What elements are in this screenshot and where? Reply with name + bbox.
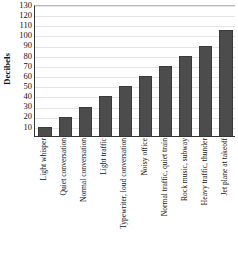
x-axis-tick-label-slot: Quiet conversation <box>57 138 71 262</box>
y-axis-tick-label: 80 <box>24 52 33 61</box>
bar <box>99 96 112 137</box>
x-axis-tick-labels: Light whisperQuiet conversationNormal co… <box>34 138 235 265</box>
x-axis-tick-label-slot: Rock music, subway <box>178 138 192 262</box>
x-axis-tick-label: Heavy traffic, thunder <box>201 138 209 205</box>
y-axis-tick-label: 70 <box>24 62 33 71</box>
x-axis-tick-label-slot: Normal traffic, quiet train <box>158 138 172 262</box>
bar <box>199 46 212 137</box>
bar <box>59 117 72 137</box>
bar <box>79 107 92 137</box>
y-axis-tick-label: 10 <box>24 123 33 132</box>
y-axis-tick-label: 60 <box>24 72 33 81</box>
x-axis-tick-label: Rock music, subway <box>181 138 189 201</box>
x-axis-tick-label: Light whisper <box>40 138 48 180</box>
y-axis-tick-label: 40 <box>24 92 33 101</box>
bar-chart: Decibels 130120110100908070605040302010 … <box>0 0 238 265</box>
x-axis-tick-label-slot: Jet plane at takeoff <box>218 138 232 262</box>
y-axis-tick-label: 20 <box>24 112 33 121</box>
x-axis-tick-label-slot: Light whisper <box>37 138 51 262</box>
x-axis-tick-label: Light traffic <box>100 138 108 175</box>
y-axis-title-label: Decibels <box>2 53 12 85</box>
y-axis-title: Decibels <box>0 0 14 138</box>
x-axis-tick-label: Noisy office <box>141 138 149 176</box>
x-axis-tick-label-slot: Normal conversation <box>77 138 91 262</box>
bars-layer <box>35 6 235 137</box>
y-axis-tick-label: 100 <box>19 31 32 40</box>
bar <box>159 66 172 137</box>
bar <box>219 30 232 137</box>
y-axis-tick-labels: 130120110100908070605040302010 <box>13 0 34 138</box>
plot-area <box>34 5 235 137</box>
y-axis-tick-label: 90 <box>24 41 33 50</box>
bar <box>179 56 192 137</box>
x-axis-tick-label: Normal traffic, quiet train <box>161 138 169 216</box>
y-axis-tick-label: 50 <box>24 82 33 91</box>
y-axis-tick-label: 120 <box>19 11 32 20</box>
x-axis-tick-label: Normal conversation <box>80 138 88 202</box>
y-axis-tick-label: 110 <box>20 21 32 30</box>
y-axis-tick-label: 130 <box>19 1 32 10</box>
x-axis-tick-label: Jet plane at takeoff <box>221 138 229 195</box>
x-axis-tick-label-slot: Noisy office <box>138 138 152 262</box>
y-axis-tick-label: 30 <box>24 102 33 111</box>
x-axis-tick-label-slot: Heavy traffic, thunder <box>198 138 212 262</box>
x-axis-tick-label-slot: Typewriter, loud conversation <box>117 138 131 262</box>
x-axis-tick-label-slot: Light traffic <box>97 138 111 262</box>
x-axis-tick-label: Typewriter, loud conversation <box>120 138 128 229</box>
bar <box>139 76 152 137</box>
x-axis-tick-label: Quiet conversation <box>60 138 68 196</box>
bar <box>119 86 132 137</box>
